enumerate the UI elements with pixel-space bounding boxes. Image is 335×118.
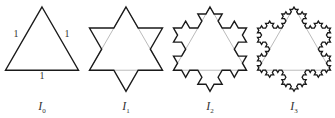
side-label-right: 1 xyxy=(65,28,70,39)
koch-figure xyxy=(0,0,335,118)
guide-triangle-i1 xyxy=(90,7,163,70)
side-label-bottom: 1 xyxy=(40,70,45,81)
side-label-left: 1 xyxy=(14,28,19,39)
koch-curve-i0 xyxy=(6,7,79,70)
guide-triangle-i2 xyxy=(174,7,247,70)
koch-curve-i2 xyxy=(174,7,247,91)
label-i0: I0 xyxy=(38,99,46,115)
koch-curve-i1 xyxy=(90,7,163,91)
label-i3: I3 xyxy=(290,99,298,115)
guide-triangle-i3 xyxy=(258,7,331,70)
label-i1: I1 xyxy=(122,99,130,115)
koch-curve-i3 xyxy=(258,7,331,91)
label-i2: I2 xyxy=(206,99,214,115)
